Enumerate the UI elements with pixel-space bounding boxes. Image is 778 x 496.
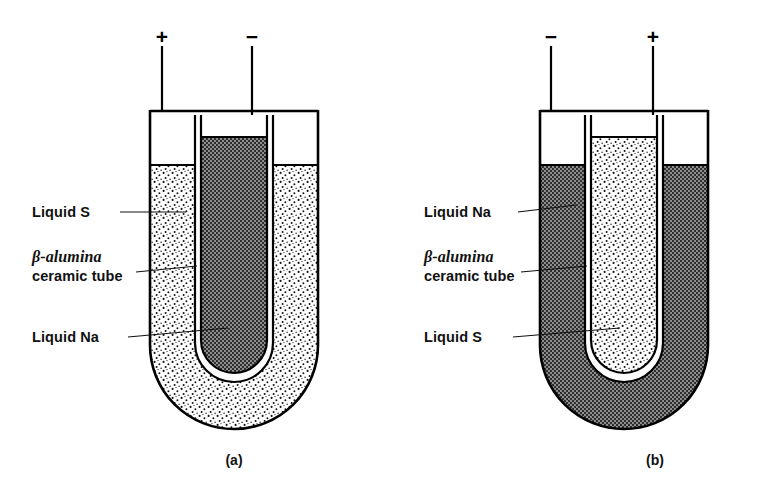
cell-b-label-tube-line1: β-alumina: [423, 248, 494, 266]
cell-b-left-terminal-sign: −: [545, 25, 557, 48]
cell-b-left-headspace: [540, 115, 587, 165]
cell-a-inner-electrolyte-fill: [201, 137, 267, 373]
cell-b-inner-tube: [591, 137, 657, 373]
cell-a-caption: (a): [225, 452, 242, 468]
cell-b-right-headspace: [661, 115, 708, 165]
sodium-sulfur-cell-figure: + −: [0, 0, 778, 496]
cell-b-caption: (b): [646, 452, 664, 468]
cell-a-label-outer: Liquid S: [32, 204, 90, 220]
cell-b-inner-electrolyte-fill: [591, 137, 657, 373]
cell-a-label-tube-line2: ceramic tube: [32, 268, 123, 284]
cell-b-label-inner: Liquid S: [424, 329, 482, 345]
cell-a-inner-tube: [201, 137, 267, 373]
cell-a-label-tube-line1: β-alumina: [31, 248, 102, 266]
cell-a-center-terminal-sign: −: [246, 25, 258, 48]
cell-a-left-terminal-sign: +: [156, 25, 168, 48]
cell-a-right-headspace: [271, 115, 318, 165]
cell-a-label-inner: Liquid Na: [32, 329, 100, 345]
cell-b-label-outer: Liquid Na: [424, 204, 492, 220]
cell-a-left-headspace: [150, 115, 197, 165]
cell-b-label-tube-line2: ceramic tube: [424, 268, 515, 284]
cell-b-center-terminal-sign: +: [647, 25, 659, 48]
